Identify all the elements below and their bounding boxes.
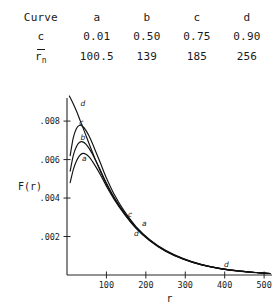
curve-label-a: a bbox=[142, 219, 147, 228]
y-axis-title: F(r) bbox=[18, 181, 42, 192]
cell-c-b: 0.50 bbox=[122, 27, 172, 46]
curve-c bbox=[70, 125, 270, 273]
row-label-c: c bbox=[10, 27, 72, 46]
n-subscript: n bbox=[42, 56, 47, 65]
parameter-table-block: Curve a b c d c 0.01 0.50 0.75 0.90 rn bbox=[0, 8, 276, 66]
x-axis-tick-label: 300 bbox=[178, 280, 193, 290]
cell-rn-d: 256 bbox=[222, 46, 272, 66]
table-row: c 0.01 0.50 0.75 0.90 bbox=[10, 27, 272, 46]
curve-label-c: c bbox=[128, 210, 133, 219]
curve-label-d: d bbox=[224, 260, 229, 269]
cell-c-d: 0.90 bbox=[222, 27, 272, 46]
parameter-table: Curve a b c d c 0.01 0.50 0.75 0.90 rn bbox=[10, 8, 272, 66]
distribution-chart: .002.004.006.008100200300400500 aabccddd… bbox=[0, 84, 276, 306]
r-bar-n-glyph: rn bbox=[35, 49, 47, 62]
ticks-layer: .002.004.006.008100200300400500 bbox=[40, 116, 272, 290]
cell-curve-a: a bbox=[72, 8, 122, 27]
cell-curve-b: b bbox=[122, 8, 172, 27]
x-axis-tick-label: 200 bbox=[138, 280, 153, 290]
curve-label-d: d bbox=[134, 229, 139, 238]
cell-curve-d: d bbox=[222, 8, 272, 27]
parameter-table-body: Curve a b c d c 0.01 0.50 0.75 0.90 rn bbox=[10, 8, 272, 66]
curve-label-b: b bbox=[80, 133, 85, 142]
curve-label-d: d bbox=[80, 99, 85, 108]
x-axis-tick-label: 100 bbox=[99, 280, 114, 290]
r-symbol: r bbox=[35, 51, 42, 62]
y-axis-tick-label: .008 bbox=[40, 116, 60, 126]
cell-c-c: 0.75 bbox=[172, 27, 222, 46]
cell-rn-a: 100.5 bbox=[72, 46, 122, 66]
x-axis-title: r bbox=[166, 293, 172, 304]
y-axis-tick-label: .004 bbox=[40, 193, 60, 203]
curves-layer bbox=[69, 96, 270, 273]
table-row: rn 100.5 139 185 256 bbox=[10, 46, 272, 66]
y-axis-tick-label: .002 bbox=[40, 232, 60, 242]
row-label-curve: Curve bbox=[10, 8, 72, 27]
x-axis-tick-label: 400 bbox=[217, 280, 232, 290]
row-label-rn-bar: rn bbox=[10, 46, 72, 66]
cell-rn-b: 139 bbox=[122, 46, 172, 66]
cell-curve-c: c bbox=[172, 8, 222, 27]
axes-layer bbox=[67, 98, 272, 275]
y-axis-tick-label: .006 bbox=[40, 155, 60, 165]
table-row: Curve a b c d bbox=[10, 8, 272, 27]
x-axis-tick-label: 500 bbox=[256, 280, 271, 290]
cell-c-a: 0.01 bbox=[72, 27, 122, 46]
curve-d bbox=[69, 96, 270, 273]
plot-svg: .002.004.006.008100200300400500 aabccddd… bbox=[0, 84, 276, 306]
curve-label-c: c bbox=[79, 118, 84, 127]
curve-label-a: a bbox=[82, 154, 87, 163]
cell-rn-c: 185 bbox=[172, 46, 222, 66]
